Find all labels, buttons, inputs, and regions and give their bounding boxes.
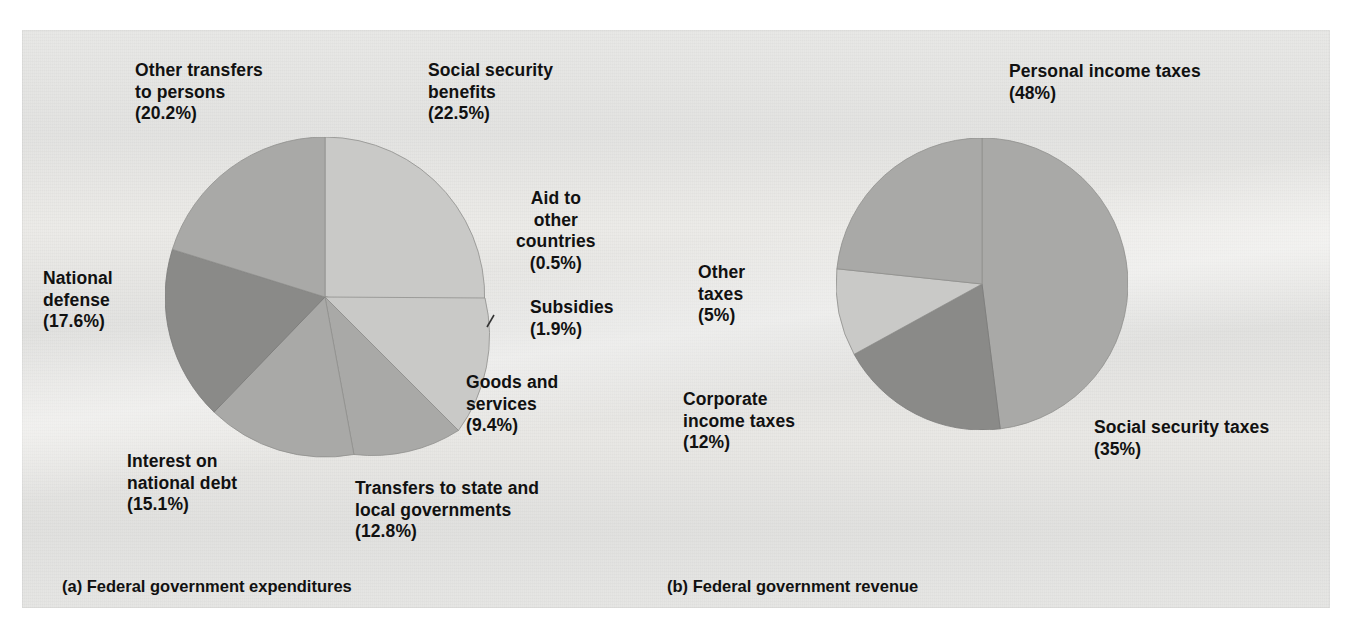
label-transfers-to-state-and-local-governments: Transfers to state and local governments… [355,478,539,543]
slice-other-taxes [837,138,982,284]
label-aid-to-other-countries: Aid to other countries (0.5%) [516,188,596,274]
label-interest-on-national-debt: Interest on national debt (15.1%) [127,451,237,516]
label-social-security-taxes: Social security taxes (35%) [1094,417,1269,460]
label-social-security-benefits: Social security benefits (22.5%) [428,60,553,125]
slice-social-security-benefits [325,137,485,320]
label-national-defense: National defense (17.6%) [43,268,113,333]
label-other-transfers-to-persons: Other transfers to persons (20.2%) [135,60,263,125]
pie-expenditures-svg [165,137,495,462]
pie-chart-expenditures [165,137,485,457]
figure-root: Other transfers to persons (20.2%) Socia… [0,0,1352,637]
slice-personal-income-taxes [982,138,1128,429]
pie-chart-revenue [836,138,1128,430]
label-corporate-income-taxes: Corporate income taxes (12%) [683,389,795,454]
label-subsidies: Subsidies (1.9%) [530,297,614,340]
label-goods-and-services: Goods and services (9.4%) [466,372,558,437]
label-personal-income-taxes: Personal income taxes (48%) [1009,61,1201,104]
caption-panel-b: (b) Federal government revenue [667,577,918,596]
pie-revenue-svg [836,138,1128,430]
label-other-taxes: Other taxes (5%) [698,262,745,327]
caption-panel-a: (a) Federal government expenditures [62,577,352,596]
